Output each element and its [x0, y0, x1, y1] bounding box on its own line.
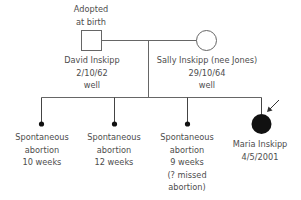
- child-2-line1: Spontaneous: [87, 131, 141, 144]
- child-3-line5: abortion): [160, 181, 214, 194]
- abortion-2-dot-icon: [112, 121, 117, 126]
- father-note: Adopted at birth: [74, 3, 108, 28]
- mother-status: well: [157, 79, 257, 92]
- mother-name: Sally Inskipp (nee Jones): [157, 54, 257, 67]
- child-2-label: Spontaneous abortion 12 weeks: [87, 131, 141, 169]
- child-1-label: Spontaneous abortion 10 weeks: [15, 131, 69, 169]
- proband-arrow-icon: [267, 100, 279, 112]
- mother-label: Sally Inskipp (nee Jones) 29/10/64 well: [157, 54, 257, 92]
- father-dob: 2/10/62: [64, 67, 120, 80]
- father-square-symbol: [82, 31, 102, 51]
- child-3-line3: 9 weeks: [160, 156, 214, 169]
- child-3-line4: (? missed: [160, 169, 214, 182]
- child-3-label: Spontaneous abortion 9 weeks (? missed a…: [160, 131, 214, 194]
- child-1-line2: abortion: [15, 144, 69, 157]
- father-name: David Inskipp: [64, 54, 120, 67]
- child-2-line3: 12 weeks: [87, 156, 141, 169]
- pedigree-lines: [0, 0, 301, 200]
- child-1-line3: 10 weeks: [15, 156, 69, 169]
- father-note-line2: at birth: [74, 16, 108, 29]
- child-3-line1: Spontaneous: [160, 131, 214, 144]
- father-label: David Inskipp 2/10/62 well: [64, 54, 120, 92]
- child-3-line2: abortion: [160, 144, 214, 157]
- proband-label: Maria Inskipp 4/5/2001: [233, 138, 288, 163]
- mother-dob: 29/10/64: [157, 67, 257, 80]
- proband-affected-circle-symbol: [252, 114, 272, 134]
- abortion-3-dot-icon: [185, 121, 190, 126]
- child-2-line2: abortion: [87, 144, 141, 157]
- mother-circle-symbol: [197, 31, 217, 51]
- abortion-1-dot-icon: [39, 121, 44, 126]
- proband-name: Maria Inskipp: [233, 138, 288, 151]
- father-note-line1: Adopted: [74, 3, 108, 16]
- child-1-line1: Spontaneous: [15, 131, 69, 144]
- father-status: well: [64, 79, 120, 92]
- proband-dob: 4/5/2001: [233, 151, 288, 164]
